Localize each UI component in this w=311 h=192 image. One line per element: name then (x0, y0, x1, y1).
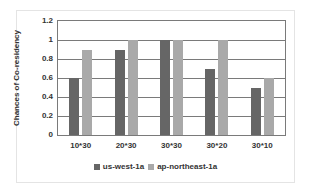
y-tick-label: 0 (23, 131, 53, 139)
bar-ap-northeast-1a-10*30 (82, 50, 92, 136)
x-tick-label: 10*30 (61, 141, 101, 150)
y-tick-label: 0.4 (23, 93, 53, 101)
x-tick-label: 30*20 (197, 141, 237, 150)
x-tick-label: 30*30 (152, 141, 192, 150)
legend-item-us-west-1a: us-west-1a (94, 162, 144, 171)
y-tick-label: 1.2 (23, 17, 53, 25)
y-axis-label: Chances of Co-residency (12, 23, 21, 133)
bar-ap-northeast-1a-30*30 (173, 40, 183, 135)
bar-us-west-1a-30*10 (251, 88, 261, 136)
bar-us-west-1a-10*30 (69, 78, 79, 135)
legend-swatch-icon (94, 164, 100, 170)
gridline (58, 40, 285, 41)
y-tick-label: 0.2 (23, 112, 53, 120)
legend-label: us-west-1a (103, 162, 144, 171)
bar-ap-northeast-1a-30*10 (264, 78, 274, 135)
bar-ap-northeast-1a-30*20 (218, 40, 228, 135)
bar-us-west-1a-30*30 (160, 40, 170, 135)
y-tick-label: 0.6 (23, 74, 53, 82)
legend-swatch-icon (148, 164, 154, 170)
legend: us-west-1aap-northeast-1a (0, 162, 311, 171)
bar-us-west-1a-20*30 (115, 50, 125, 136)
y-tick-label: 1 (23, 36, 53, 44)
bar-us-west-1a-30*20 (205, 69, 215, 136)
legend-label: ap-northeast-1a (157, 162, 217, 171)
legend-item-ap-northeast-1a: ap-northeast-1a (148, 162, 217, 171)
y-tick-label: 0.8 (23, 55, 53, 63)
x-tick-label: 30*10 (242, 141, 282, 150)
x-tick-label: 20*30 (106, 141, 146, 150)
plot-area (57, 20, 286, 136)
bar-ap-northeast-1a-20*30 (128, 40, 138, 135)
